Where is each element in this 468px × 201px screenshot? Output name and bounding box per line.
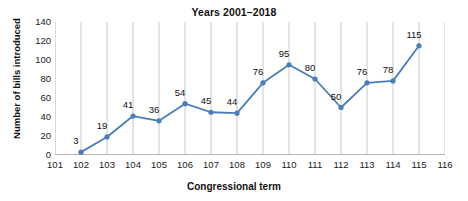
- y-tick-80: 80: [21, 74, 51, 84]
- data-label-102: 3: [59, 136, 93, 146]
- data-label-111: 80: [293, 63, 327, 73]
- x-tick-116: 116: [425, 160, 465, 170]
- y-tick-40: 40: [21, 112, 51, 122]
- x-axis-label: Congressional term: [0, 181, 468, 192]
- x-axis-tick-labels: 1011021031041051061071081091101111121131…: [55, 160, 445, 174]
- y-tick-120: 120: [21, 36, 51, 46]
- chart-title: Years 2001–2018: [0, 6, 468, 18]
- data-point-labels: 3194136544544769580507678115: [55, 22, 445, 155]
- data-label-110: 95: [267, 49, 301, 59]
- data-label-109: 76: [241, 67, 275, 77]
- y-axis-tick-labels: 020406080100120140: [18, 22, 51, 155]
- data-label-112: 50: [319, 92, 353, 102]
- y-tick-20: 20: [21, 131, 51, 141]
- data-label-115: 115: [397, 30, 431, 40]
- data-label-108: 44: [215, 97, 249, 107]
- y-tick-100: 100: [21, 55, 51, 65]
- data-label-103: 19: [85, 121, 119, 131]
- data-label-114: 78: [371, 65, 405, 75]
- y-tick-60: 60: [21, 93, 51, 103]
- y-tick-140: 140: [21, 17, 51, 27]
- chart-figure: Years 2001–2018 Number of bills introduc…: [0, 0, 468, 201]
- data-label-105: 36: [137, 105, 171, 115]
